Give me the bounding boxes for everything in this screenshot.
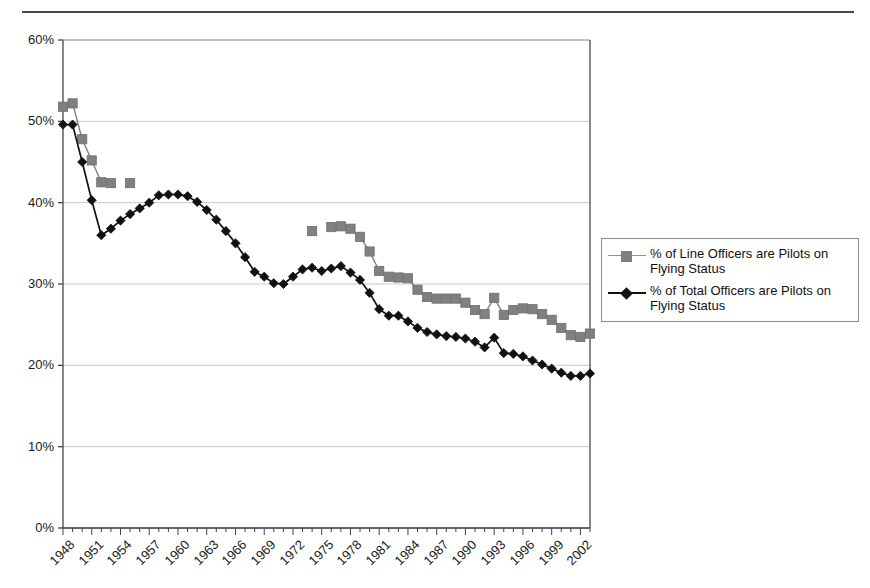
data-point-marker bbox=[442, 294, 451, 303]
data-point-marker bbox=[269, 279, 278, 288]
data-point-marker bbox=[470, 337, 479, 346]
data-point-marker bbox=[499, 310, 508, 319]
data-point-marker bbox=[432, 330, 441, 339]
y-tick-label: 30% bbox=[8, 276, 54, 291]
data-point-marker bbox=[308, 227, 317, 236]
data-point-marker bbox=[557, 368, 566, 377]
data-point-marker bbox=[327, 264, 336, 273]
data-point-marker bbox=[375, 266, 384, 275]
data-point-marker bbox=[490, 293, 499, 302]
data-point-marker bbox=[403, 317, 412, 326]
legend-key-diamond-icon bbox=[608, 284, 646, 301]
data-point-marker bbox=[346, 224, 355, 233]
data-point-marker bbox=[566, 371, 575, 380]
data-point-marker bbox=[461, 334, 470, 343]
data-point-marker bbox=[499, 349, 508, 358]
y-tick-label: 40% bbox=[8, 195, 54, 210]
data-point-marker bbox=[260, 272, 269, 281]
data-point-marker bbox=[538, 310, 547, 319]
y-tick-label: 0% bbox=[8, 520, 54, 535]
data-point-marker bbox=[135, 204, 144, 213]
data-point-marker bbox=[126, 179, 135, 188]
data-point-marker bbox=[585, 329, 594, 338]
data-point-marker bbox=[375, 305, 384, 314]
data-point-marker bbox=[327, 223, 336, 232]
data-point-marker bbox=[317, 266, 326, 275]
legend-label-line-officers: % of Line Officers are Pilots on Flying … bbox=[650, 246, 852, 276]
data-point-marker bbox=[78, 157, 87, 166]
data-point-marker bbox=[355, 232, 364, 241]
chart-legend: % of Line Officers are Pilots on Flying … bbox=[601, 238, 859, 322]
legend-item-total-officers: % of Total Officers are Pilots on Flying… bbox=[608, 283, 852, 313]
data-point-marker bbox=[308, 263, 317, 272]
data-point-marker bbox=[518, 304, 527, 313]
y-tick-label: 10% bbox=[8, 439, 54, 454]
data-point-marker bbox=[87, 156, 96, 165]
data-point-marker bbox=[461, 298, 470, 307]
data-point-marker bbox=[173, 190, 182, 199]
data-point-marker bbox=[528, 305, 537, 314]
data-point-marker bbox=[403, 274, 412, 283]
data-point-marker bbox=[423, 327, 432, 336]
data-point-marker bbox=[250, 267, 259, 276]
series-total-officers bbox=[58, 120, 594, 381]
legend-key-square-icon bbox=[608, 247, 646, 264]
data-point-marker bbox=[394, 311, 403, 320]
data-point-marker bbox=[183, 192, 192, 201]
y-tick-label: 50% bbox=[8, 113, 54, 128]
data-point-marker bbox=[97, 231, 106, 240]
series-line-officers bbox=[58, 99, 594, 342]
data-point-marker bbox=[423, 292, 432, 301]
data-point-marker bbox=[470, 305, 479, 314]
data-point-marker bbox=[509, 305, 518, 314]
data-point-marker bbox=[566, 331, 575, 340]
data-point-marker bbox=[413, 285, 422, 294]
legend-item-line-officers: % of Line Officers are Pilots on Flying … bbox=[608, 246, 852, 276]
data-point-marker bbox=[164, 190, 173, 199]
data-point-marker bbox=[538, 360, 547, 369]
data-point-marker bbox=[509, 349, 518, 358]
data-point-marker bbox=[394, 273, 403, 282]
data-point-marker bbox=[384, 272, 393, 281]
data-point-marker bbox=[557, 323, 566, 332]
data-point-marker bbox=[547, 315, 556, 324]
chart-figure: 0%10%20%30%40%50%60% 1948195119541957196… bbox=[0, 0, 870, 588]
data-point-marker bbox=[78, 135, 87, 144]
data-point-marker bbox=[518, 352, 527, 361]
data-point-marker bbox=[106, 179, 115, 188]
data-point-marker bbox=[451, 332, 460, 341]
data-point-marker bbox=[576, 332, 585, 341]
data-point-marker bbox=[384, 311, 393, 320]
data-point-marker bbox=[413, 323, 422, 332]
data-point-marker bbox=[576, 371, 585, 380]
data-point-marker bbox=[58, 102, 67, 111]
data-point-marker bbox=[126, 210, 135, 219]
data-point-marker bbox=[336, 222, 345, 231]
series-line bbox=[63, 125, 590, 376]
data-point-marker bbox=[451, 294, 460, 303]
data-point-marker bbox=[87, 196, 96, 205]
data-point-marker bbox=[97, 178, 106, 187]
data-point-marker bbox=[365, 247, 374, 256]
data-point-marker bbox=[442, 332, 451, 341]
data-point-marker bbox=[336, 262, 345, 271]
data-point-marker bbox=[68, 99, 77, 108]
data-point-marker bbox=[585, 369, 594, 378]
y-tick-label: 20% bbox=[8, 357, 54, 372]
data-point-marker bbox=[480, 310, 489, 319]
data-point-marker bbox=[528, 356, 537, 365]
data-point-marker bbox=[432, 294, 441, 303]
legend-label-total-officers: % of Total Officers are Pilots on Flying… bbox=[650, 283, 852, 313]
y-tick-label: 60% bbox=[8, 32, 54, 47]
